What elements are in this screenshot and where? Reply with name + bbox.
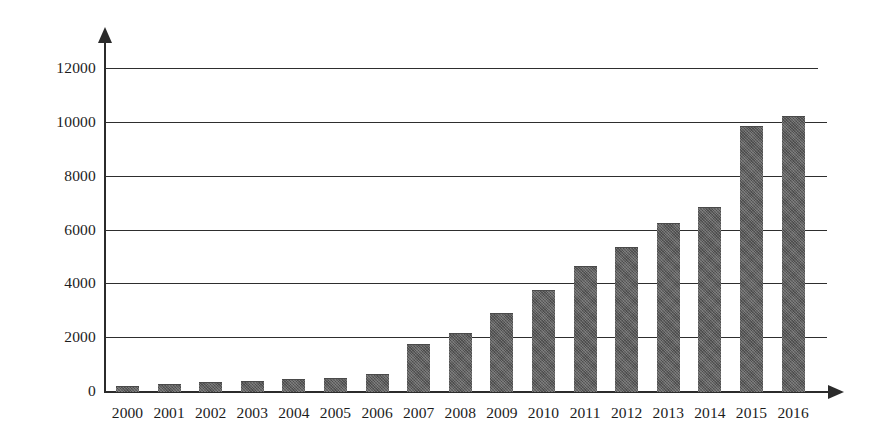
- gridline-10000: [105, 122, 827, 123]
- y-tick-label: 4000: [30, 275, 96, 291]
- bar-chart: 020004000600080001000012000 200020012002…: [0, 0, 886, 441]
- x-tick-label: 2016: [763, 404, 823, 422]
- y-tick-label: 8000: [30, 168, 96, 184]
- bar-2010: [532, 290, 555, 392]
- bar-2007: [407, 344, 430, 392]
- bar-2004: [282, 379, 305, 392]
- y-tick-label: 2000: [30, 329, 96, 345]
- y-tick-label: 10000: [30, 114, 96, 130]
- bar-2002: [199, 382, 222, 392]
- bar-2006: [366, 374, 389, 392]
- bar-2005: [324, 378, 347, 392]
- bar-2001: [158, 384, 181, 392]
- gridline-8000: [105, 176, 827, 177]
- y-tick-label: 0: [30, 383, 96, 399]
- bar-2013: [657, 223, 680, 392]
- y-tick-label: 6000: [30, 222, 96, 238]
- bar-2000: [116, 386, 139, 392]
- bar-2016: [782, 116, 805, 392]
- bar-2011: [574, 266, 597, 392]
- y-tick-label: 12000: [30, 60, 96, 76]
- y-axis-arrowhead-icon: [98, 27, 112, 43]
- bar-2014: [698, 207, 721, 392]
- gridline-12000: [105, 68, 818, 69]
- y-axis-line: [104, 40, 106, 393]
- x-axis-arrowhead-icon: [828, 385, 844, 399]
- bar-2003: [241, 381, 264, 392]
- bar-2015: [740, 126, 763, 392]
- bar-2009: [490, 313, 513, 392]
- bar-2008: [449, 333, 472, 392]
- bar-2012: [615, 247, 638, 392]
